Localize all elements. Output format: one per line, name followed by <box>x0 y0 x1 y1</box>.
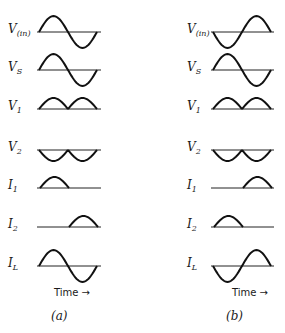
signal-label: IL <box>187 257 197 272</box>
panel-caption: (a) <box>51 310 68 322</box>
signal-symbol: V <box>8 22 17 36</box>
waveform-i-1 <box>243 177 272 188</box>
signal-subscript: 2 <box>196 147 201 156</box>
signal-subscript: 1 <box>196 106 201 115</box>
signal-subscript: S <box>196 67 201 76</box>
signal-symbol: V <box>187 60 196 74</box>
signal-label: V1 <box>8 100 22 115</box>
signal-label: I1 <box>187 179 197 194</box>
waveform-i-1 <box>40 177 69 188</box>
signal-subscript: L <box>13 263 18 272</box>
signal-subscript: 2 <box>192 224 197 233</box>
signal-label: V2 <box>8 141 22 156</box>
signal-symbol: V <box>187 140 196 154</box>
waveform-v-2 <box>213 150 271 161</box>
signal-subscript: L <box>192 263 197 272</box>
waveform-i-2 <box>69 216 98 227</box>
signal-label: V1 <box>187 100 201 115</box>
signal-subscript: 2 <box>17 147 22 156</box>
waveform-v-2 <box>39 150 97 161</box>
arrow-right-icon: → <box>259 287 267 298</box>
signal-symbol: V <box>8 60 17 74</box>
signal-label: I2 <box>187 218 197 233</box>
signal-symbol: V <box>187 99 196 113</box>
waveform-diagram <box>0 0 285 333</box>
signal-symbol: V <box>8 140 17 154</box>
signal-subscript: (in) <box>17 29 31 38</box>
waveform-i-2 <box>214 216 243 227</box>
signal-symbol: V <box>8 99 17 113</box>
signal-label: IL <box>8 257 18 272</box>
signal-subscript: 1 <box>17 106 22 115</box>
signal-label: VS <box>8 61 22 76</box>
signal-subscript: (in) <box>196 29 210 38</box>
time-axis-label: Time→ <box>54 288 90 298</box>
signal-label: I1 <box>8 179 18 194</box>
signal-subscript: 2 <box>13 224 18 233</box>
waveform-v-1 <box>213 98 271 109</box>
signal-label: V(in) <box>8 23 31 38</box>
signal-symbol: V <box>187 22 196 36</box>
signal-subscript: 1 <box>192 185 197 194</box>
waveform-v-1 <box>39 98 97 109</box>
panel-caption: (b) <box>226 310 243 322</box>
arrow-right-icon: → <box>81 287 89 298</box>
signal-subscript: S <box>17 67 22 76</box>
time-text: Time <box>54 287 78 298</box>
signal-subscript: 1 <box>13 185 18 194</box>
time-axis-label: Time→ <box>232 288 268 298</box>
signal-label: VS <box>187 61 201 76</box>
time-text: Time <box>232 287 256 298</box>
signal-label: V2 <box>187 141 201 156</box>
signal-label: I2 <box>8 218 18 233</box>
signal-label: V(in) <box>187 23 210 38</box>
